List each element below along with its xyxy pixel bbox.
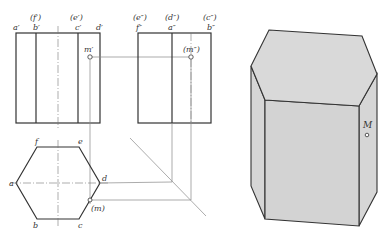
projector-d-horizontal [100,182,172,183]
label-e: e [78,137,83,146]
prism-top-face [251,30,377,106]
label-a-prime: a′ [13,23,20,32]
label-b-dprime: b″ [207,23,215,32]
label-b-prime: b′ [33,23,40,32]
label-e-prime: (e′) [70,13,83,22]
label-c-dprime: (c″) [203,13,217,22]
point-M-iso [365,133,369,137]
label-f-prime: (f′) [30,13,41,22]
label-m-prime: m′ [84,45,94,54]
label-f: f [34,137,40,146]
isometric-prism: M [251,30,377,226]
top-view: a f e d c b (m) [9,137,191,230]
point-m-side [189,55,193,59]
label-e-dprime: (e″) [133,13,147,22]
label-b: b [33,221,38,230]
label-a: a [9,179,14,188]
point-m-top [88,198,92,202]
side-view: (e″) (d″) (c″) f″ a″ b″ (m″) [133,13,217,200]
label-c-prime: c′ [75,23,81,32]
miter-line-45 [130,138,206,216]
label-M: M [362,120,373,130]
label-d: d [102,174,107,183]
label-c: c [78,221,83,230]
front-view: (f′) (e′) a′ b′ c′ d′ m′ [13,13,189,204]
prism-projection-drawing: (f′) (e′) a′ b′ c′ d′ m′ (e″) (d″) (c″) … [0,0,387,235]
label-d-dprime: (d″) [165,13,179,22]
side-view-outline [138,33,211,123]
label-m-dprime: (m″) [183,45,200,54]
point-m-front [88,55,92,59]
label-d-prime: d′ [96,23,103,32]
label-m: (m) [91,204,105,213]
prism-front-face [265,100,359,226]
label-a-dprime: a″ [168,23,176,32]
label-f-dprime: f″ [135,23,142,32]
